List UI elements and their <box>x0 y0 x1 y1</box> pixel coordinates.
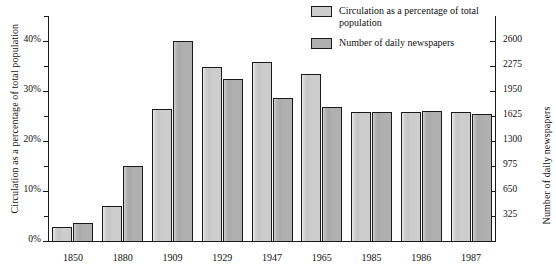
x-axis-tick-label: 1985 <box>347 252 397 263</box>
bar-circulation <box>102 206 122 242</box>
chart-container: Circulation as a percentage of total pop… <box>0 0 556 267</box>
x-axis-tick-label: 1947 <box>247 252 297 263</box>
bar-newspapers <box>472 114 492 242</box>
y-axis-right-tick <box>490 66 496 67</box>
y-axis-left-tick <box>43 241 49 242</box>
y-axis-left-minor-tick <box>44 166 49 167</box>
y-axis-left-line <box>48 16 49 242</box>
x-axis-tick-label: 1965 <box>297 252 347 263</box>
y-axis-left-tick <box>43 141 49 142</box>
y-axis-right-tick-label: 1625 <box>503 109 549 119</box>
y-axis-right-tick-label: 975 <box>503 159 549 169</box>
legend-label-newspapers: Number of daily newspapers <box>339 37 454 49</box>
y-axis-left-minor-tick <box>44 16 49 17</box>
y-axis-left-minor-tick <box>44 116 49 117</box>
bar-circulation <box>152 109 172 243</box>
legend-item-newspapers: Number of daily newspapers <box>311 37 511 49</box>
x-axis-tick-label: 1986 <box>396 252 446 263</box>
x-axis-tick-label: 1880 <box>98 252 148 263</box>
x-axis-tick-label: 1987 <box>446 252 496 263</box>
y-axis-right-tick-label: 1950 <box>503 84 549 94</box>
bar-newspapers <box>422 111 442 242</box>
bar-newspapers <box>322 107 342 242</box>
bar-circulation <box>451 112 471 242</box>
y-axis-right-tick-label: 2275 <box>503 59 549 69</box>
bar-circulation <box>202 67 222 242</box>
legend-swatch-circulation-icon <box>311 6 332 17</box>
bar-newspapers <box>223 79 243 242</box>
y-axis-left-minor-tick <box>44 216 49 217</box>
bar-circulation <box>401 112 421 242</box>
bar-newspapers <box>372 112 392 242</box>
x-axis-tick-label: 1929 <box>197 252 247 263</box>
legend-item-circulation: Circulation as a percentage of total pop… <box>311 5 511 28</box>
bar-circulation <box>351 112 371 243</box>
y-axis-left-tick-label: 0% <box>0 234 41 244</box>
legend-label-circulation: Circulation as a percentage of total pop… <box>339 5 499 28</box>
bar-newspapers <box>173 41 193 242</box>
y-axis-left-tick-label: 30% <box>0 84 41 94</box>
bar-newspapers <box>73 223 93 242</box>
x-axis-tick-label: 1850 <box>48 252 98 263</box>
y-axis-left-tick <box>43 191 49 192</box>
y-axis-left-tick-label: 10% <box>0 184 41 194</box>
y-axis-right-tick <box>490 91 496 92</box>
bar-circulation <box>301 74 321 243</box>
y-axis-right-tick-label: 325 <box>503 209 549 219</box>
bar-circulation <box>252 62 272 242</box>
bar-newspapers <box>123 166 143 242</box>
y-axis-left-minor-tick <box>44 66 49 67</box>
y-axis-right-tick-label: 650 <box>503 184 549 194</box>
chart-legend: Circulation as a percentage of total pop… <box>311 5 511 58</box>
legend-swatch-newspapers-icon <box>311 38 332 49</box>
y-axis-left-tick-label: 20% <box>0 134 41 144</box>
y-axis-left-tick <box>43 91 49 92</box>
bar-circulation <box>52 227 72 243</box>
y-axis-right-tick-label: 1300 <box>503 134 549 144</box>
y-axis-left-tick-label: 40% <box>0 34 41 44</box>
y-axis-left-tick <box>43 41 49 42</box>
x-axis-tick-label: 1909 <box>147 252 197 263</box>
bar-newspapers <box>273 98 293 242</box>
